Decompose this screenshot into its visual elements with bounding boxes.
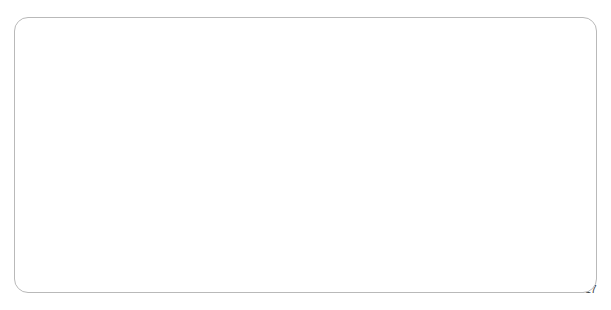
chart-card-border xyxy=(14,17,597,293)
chart-container: 00.20.40.60.811.21.41.61.820012002200320… xyxy=(0,0,611,310)
